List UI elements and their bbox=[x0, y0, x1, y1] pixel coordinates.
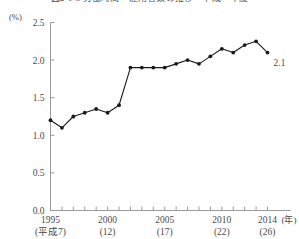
x-axis-unit-label: (年) bbox=[282, 214, 297, 225]
data-point bbox=[83, 111, 87, 115]
data-point bbox=[71, 115, 75, 119]
x-tick-label: 1995 bbox=[41, 215, 60, 225]
data-point bbox=[106, 111, 110, 115]
x-tick-sublabel: (22) bbox=[214, 227, 230, 238]
y-tick-label: 0.5 bbox=[33, 168, 45, 178]
y-axis: 0.00.51.01.52.02.5 bbox=[33, 18, 55, 216]
data-point bbox=[129, 66, 133, 70]
data-point bbox=[197, 62, 201, 66]
data-point bbox=[266, 51, 270, 55]
x-tick-sublabel: (平成7) bbox=[35, 226, 66, 238]
data-series bbox=[49, 39, 270, 129]
data-point bbox=[231, 51, 235, 55]
y-tick-label: 1.5 bbox=[33, 93, 45, 103]
x-tick-label: 2010 bbox=[212, 215, 231, 225]
line-chart: 0.00.51.01.52.02.5 1995(平成7)2000(12)2005… bbox=[0, 0, 299, 239]
series-line bbox=[51, 41, 268, 127]
y-tick-label: 2.0 bbox=[33, 56, 45, 66]
data-point bbox=[220, 47, 224, 51]
x-tick-label: 2005 bbox=[155, 215, 174, 225]
x-tick-label: 2000 bbox=[98, 215, 117, 225]
x-axis: 1995(平成7)2000(12)2005(17)2010(22)2014(26… bbox=[35, 207, 297, 238]
data-point bbox=[140, 66, 144, 70]
data-point bbox=[49, 118, 53, 122]
x-tick-label: 2014 bbox=[258, 215, 277, 225]
data-point-label: 2.1 bbox=[274, 58, 286, 68]
data-point bbox=[208, 54, 212, 58]
y-tick-label: 2.5 bbox=[33, 18, 45, 28]
data-point bbox=[254, 39, 258, 43]
data-point bbox=[174, 62, 178, 66]
data-labels: 2.1 bbox=[274, 58, 286, 68]
chart-page: 図2-1-3 労働時間 雇用者数の推移 平成 年度 (%) 0.00.51.01… bbox=[0, 0, 299, 239]
data-point bbox=[94, 107, 98, 111]
x-tick-sublabel: (17) bbox=[157, 227, 173, 238]
data-point bbox=[117, 103, 121, 107]
data-point bbox=[243, 43, 247, 47]
y-tick-label: 1.0 bbox=[33, 131, 45, 141]
data-point bbox=[60, 126, 64, 130]
data-point bbox=[163, 66, 167, 70]
data-point bbox=[186, 58, 190, 62]
data-point bbox=[151, 66, 155, 70]
x-tick-sublabel: (26) bbox=[260, 227, 276, 238]
x-tick-sublabel: (12) bbox=[100, 227, 116, 238]
